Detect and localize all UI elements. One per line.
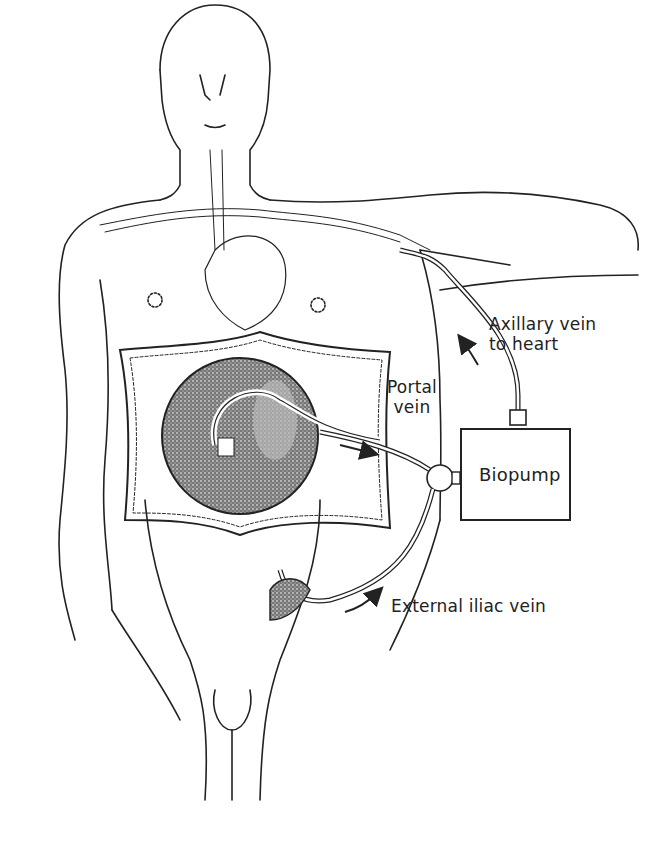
heart <box>205 236 286 330</box>
groin <box>214 690 251 730</box>
y-connector <box>427 465 453 491</box>
right-arm-outline <box>270 192 638 250</box>
label-external-iliac-vein: External iliac vein <box>391 596 546 616</box>
label-portal-line2: vein <box>387 397 437 417</box>
flow-arrow-axillary <box>462 340 478 365</box>
anatomical-illustration <box>0 0 647 858</box>
label-axillary-vein: Axillary vein to heart <box>489 314 596 354</box>
label-biopump: Biopump <box>479 465 561 485</box>
flow-arrow-portal <box>340 445 372 453</box>
label-portal-vein: Portal vein <box>387 377 437 417</box>
label-portal-line1: Portal <box>387 377 437 397</box>
label-axillary-line2: to heart <box>489 334 596 354</box>
label-axillary-line1: Axillary vein <box>489 314 596 334</box>
head-outline <box>160 5 270 200</box>
